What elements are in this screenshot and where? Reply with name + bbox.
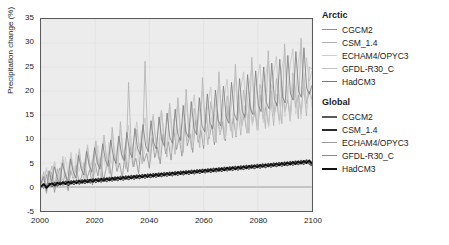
legend-swatch-icon xyxy=(322,142,337,143)
legend-rows-global: CGCM2CSM_1.4ECHAM4/OPYC3GFDL-R30_CHadCM3 xyxy=(322,110,446,175)
legend-label: ECHAM4/OPYC3 xyxy=(342,138,409,148)
legend-swatch-icon xyxy=(322,81,337,82)
legend-swatch-icon xyxy=(322,129,337,131)
legend-item-arctic-gfdlr30c[interactable]: GFDL-R30_C xyxy=(322,62,446,75)
x-tick-label: 2100 xyxy=(293,216,333,225)
y-tick-label: 20 xyxy=(8,87,34,95)
legend-label: CSM_1.4 xyxy=(342,125,377,135)
y-tick-label: 0 xyxy=(8,184,34,192)
legend-swatch-icon xyxy=(322,116,337,118)
y-tick-label: 15 xyxy=(8,111,34,119)
legend-item-global-echam4opyc3[interactable]: ECHAM4/OPYC3 xyxy=(322,136,446,149)
legend-group-arctic: Arctic CGCM2CSM_1.4ECHAM4/OPYC3GFDL-R30_… xyxy=(322,10,446,88)
y-tick-label: -5 xyxy=(8,208,34,216)
legend-swatch-icon xyxy=(322,55,337,56)
legend-swatch-icon xyxy=(322,168,337,170)
legend-heading-arctic: Arctic xyxy=(322,10,446,21)
series-line-arctic-cgcm2 xyxy=(41,79,312,192)
legend-item-arctic-csm14[interactable]: CSM_1.4 xyxy=(322,36,446,49)
x-tick-label: 2020 xyxy=(75,216,115,225)
legend-label: HadCM3 xyxy=(342,77,376,87)
x-tick-label: 2040 xyxy=(129,216,169,225)
legend-label: CGCM2 xyxy=(342,112,373,122)
plot-area xyxy=(40,18,313,212)
legend-swatch-icon xyxy=(322,29,337,30)
legend-label: ECHAM4/OPYC3 xyxy=(342,51,409,61)
legend-item-arctic-hadcm3[interactable]: HadCM3 xyxy=(322,75,446,88)
legend-item-global-csm14[interactable]: CSM_1.4 xyxy=(322,123,446,136)
legend-swatch-icon xyxy=(322,155,337,156)
x-tick-label: 2080 xyxy=(238,216,278,225)
y-tick-label: 25 xyxy=(8,63,34,71)
legend-item-global-gfdlr30c[interactable]: GFDL-R30_C xyxy=(322,149,446,162)
legend-item-arctic-cgcm2[interactable]: CGCM2 xyxy=(322,23,446,36)
x-tick-label: 2000 xyxy=(20,216,60,225)
y-tick-label: 10 xyxy=(8,135,34,143)
precipitation-change-figure: Precipitation change (%) 35302520151050-… xyxy=(0,0,449,245)
legend-group-global: Global CGCM2CSM_1.4ECHAM4/OPYC3GFDL-R30_… xyxy=(322,97,446,175)
legend-swatch-icon xyxy=(322,68,337,69)
legend-item-arctic-echam4opyc3[interactable]: ECHAM4/OPYC3 xyxy=(322,49,446,62)
series-line-arctic-hadcm3 xyxy=(41,48,312,192)
legend-heading-global: Global xyxy=(322,97,446,108)
legend-label: CGCM2 xyxy=(342,25,373,35)
x-tick-label: 2060 xyxy=(184,216,224,225)
series-lines xyxy=(41,38,312,194)
legend-item-global-cgcm2[interactable]: CGCM2 xyxy=(322,110,446,123)
legend-label: HadCM3 xyxy=(342,164,376,174)
y-tick-label: 30 xyxy=(8,38,34,46)
legend-label: GFDL-R30_C xyxy=(342,151,394,161)
plot-svg xyxy=(41,19,312,211)
legend-label: CSM_1.4 xyxy=(342,38,377,48)
legend-label: GFDL-R30_C xyxy=(342,64,394,74)
legend-swatch-icon xyxy=(322,42,337,43)
y-tick-label: 5 xyxy=(8,160,34,168)
legend-rows-arctic: CGCM2CSM_1.4ECHAM4/OPYC3GFDL-R30_CHadCM3 xyxy=(322,23,446,88)
y-tick-label: 35 xyxy=(8,14,34,22)
legend-item-global-hadcm3[interactable]: HadCM3 xyxy=(322,162,446,175)
legend: Arctic CGCM2CSM_1.4ECHAM4/OPYC3GFDL-R30_… xyxy=(322,10,446,184)
